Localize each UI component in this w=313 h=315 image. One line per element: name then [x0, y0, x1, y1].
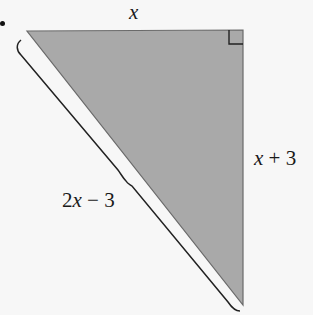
label-hyp-rest: − 3: [82, 188, 115, 212]
label-hyp-coef: 2: [62, 188, 73, 212]
label-right-side: x + 3: [254, 148, 296, 169]
label-hypotenuse: 2x − 3: [62, 190, 115, 211]
label-hyp-var: x: [73, 188, 82, 212]
label-top-side: x: [129, 2, 138, 23]
triangle-diagram: x x + 3 2x − 3: [0, 0, 313, 315]
label-right-rest: + 3: [269, 146, 297, 170]
label-right-var: x: [254, 146, 263, 170]
shaded-triangle: [27, 30, 243, 305]
